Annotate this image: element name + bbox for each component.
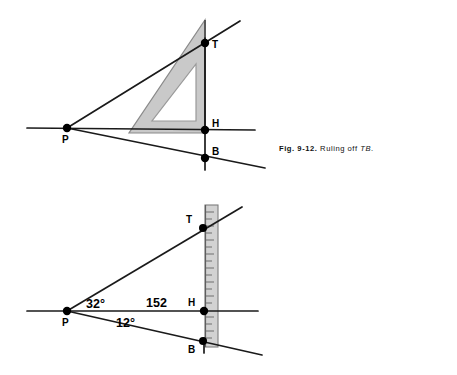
point-label-T: T: [186, 214, 192, 225]
caption-text: Ruling off: [320, 144, 357, 153]
caption-italic-term: TB: [360, 144, 371, 153]
lower-sight-line-PB: [67, 128, 265, 168]
graduated-ruler-instrument: [205, 205, 218, 347]
point-B-dot: [199, 337, 207, 345]
point-label-H: H: [188, 297, 195, 308]
point-label-B: B: [188, 344, 195, 355]
caption-number: Fig. 9-12.: [279, 144, 317, 153]
point-label-H: H: [212, 118, 219, 129]
point-label-T: T: [212, 39, 218, 50]
figure-9-12: P T H B Fig. 9-12. Ruling off TB.: [0, 0, 457, 190]
measurement-upper-angle: 32°: [86, 297, 105, 311]
lower-sight-line-PB: [67, 311, 262, 355]
figure-9-13: P T H B 32° 152 12° Fig. 9-13. The final…: [0, 190, 457, 375]
point-T-dot: [199, 224, 207, 232]
point-B-dot: [201, 154, 209, 162]
figure-9-12-drawing: P T H B: [0, 0, 280, 190]
measurement-lower-angle: 12°: [116, 316, 135, 330]
point-H-dot: [200, 307, 208, 315]
point-label-P: P: [62, 134, 69, 145]
point-T-dot: [201, 39, 209, 47]
point-P-dot: [63, 124, 71, 132]
measurement-distance: 152: [146, 296, 167, 310]
point-label-P: P: [62, 317, 69, 328]
point-H-dot: [201, 126, 209, 134]
figure-page: P T H B Fig. 9-12. Ruling off TB.: [0, 0, 457, 375]
set-square-instrument: [129, 20, 205, 133]
point-P-dot: [63, 307, 71, 315]
figure-9-12-caption: Fig. 9-12. Ruling off TB.: [279, 145, 374, 153]
caption-period: .: [371, 144, 374, 153]
horizontal-sight-line: [27, 128, 255, 130]
figure-9-13-drawing: P T H B 32° 152 12°: [0, 190, 280, 375]
point-label-B: B: [212, 146, 219, 157]
